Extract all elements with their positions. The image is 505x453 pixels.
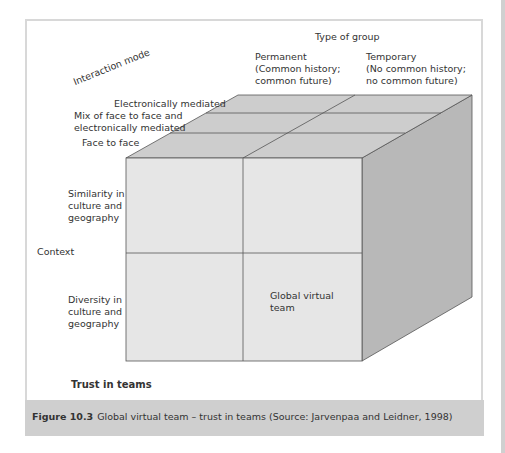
cube-front-face bbox=[126, 158, 362, 361]
interaction-mix: Mix of face to face and electronically m… bbox=[74, 110, 186, 134]
footer-title: Trust in teams bbox=[71, 379, 152, 391]
group-type-temporary: Temporary (No common history; no common … bbox=[366, 51, 466, 87]
interaction-face-to-face: Face to face bbox=[82, 137, 139, 149]
axis-context-title: Context bbox=[37, 246, 74, 258]
context-diversity: Diversity in culture and geography bbox=[68, 294, 122, 330]
interaction-electronic: Electronically mediated bbox=[114, 98, 226, 110]
context-similarity: Similarity in culture and geography bbox=[68, 188, 125, 224]
cell-global-virtual-team: Global virtual team bbox=[270, 290, 334, 314]
axis-group-title: Type of group bbox=[315, 31, 380, 43]
group-type-permanent: Permanent (Common history; common future… bbox=[255, 51, 340, 87]
figure-caption: Figure 10.3Global virtual team – trust i… bbox=[32, 411, 452, 422]
caption-label: Figure 10.3 bbox=[32, 411, 93, 422]
caption-text: Global virtual team – trust in teams (So… bbox=[97, 411, 452, 422]
